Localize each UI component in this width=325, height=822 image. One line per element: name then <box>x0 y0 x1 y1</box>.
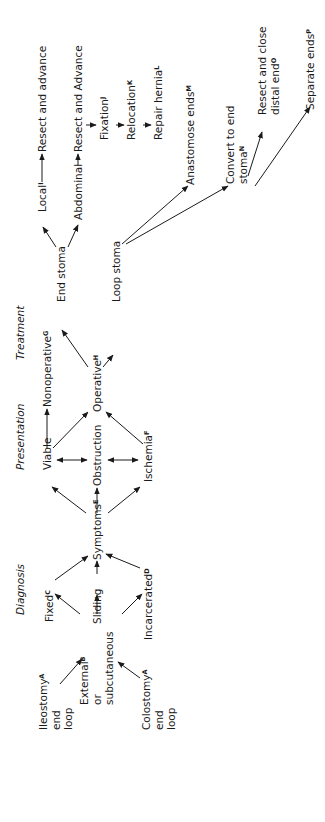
hernia-management-flowchart: Diagnosis Presentation Treatment Ileosto… <box>0 0 325 822</box>
node-anastomose-label: Anastomose ends <box>184 92 196 185</box>
node-viable: Viable <box>41 438 54 470</box>
footnote-marker: H <box>92 355 100 360</box>
header-presentation: Presentation <box>14 404 26 470</box>
node-convert-line1: Convert to end <box>224 105 236 184</box>
node-incarcerated-label: Incarcerated <box>142 574 154 640</box>
node-local-label: Local <box>36 185 48 212</box>
footnote-marker: G <box>42 331 50 336</box>
node-resect-close-line2: distal end <box>269 63 281 115</box>
node-relocation: RelocationK <box>125 80 138 140</box>
footnote-marker: A <box>141 669 149 674</box>
node-fixation-label: Fixation <box>98 99 110 140</box>
footnote-marker: E <box>92 500 100 504</box>
node-external-label: External <box>78 661 90 705</box>
footnote-marker: B <box>79 656 87 661</box>
footnote-marker: P <box>305 29 313 34</box>
node-repair-hernia: Repair herniaL <box>152 66 165 140</box>
node-end-stoma: End stoma <box>55 246 68 302</box>
node-ileostomy-label: Ileostomy <box>37 679 49 730</box>
node-repair-hernia-label: Repair hernia <box>152 70 164 140</box>
node-resect-close-line1: Resect and close <box>256 26 268 115</box>
node-abdominal-label: Abdominal <box>72 164 84 220</box>
node-convert-to-end-stoma: Convert to end stomaN <box>224 105 249 184</box>
footnote-marker: O <box>270 58 278 64</box>
node-loop-stoma: Loop stoma <box>110 241 123 302</box>
node-viable-label: Viable <box>41 438 53 470</box>
footnote-marker: N <box>238 146 246 151</box>
node-resect-advance-abd: Resect and Advance <box>72 45 85 152</box>
node-ischemia-label: Ischemia <box>142 435 154 482</box>
node-obstruction: Obstruction <box>91 425 104 486</box>
footnote-marker: M <box>185 85 193 91</box>
node-resect-close-distal: Resect and close distal endO <box>256 26 281 115</box>
node-convert-line2: stoma <box>237 151 249 184</box>
node-nonoperative: NonoperativeG <box>41 331 54 407</box>
node-ischemia: IschemiaF <box>142 431 155 483</box>
node-fixation: FixationJ <box>98 97 111 140</box>
node-sliding: Sliding <box>91 589 104 624</box>
node-end-stoma-label: End stoma <box>55 246 67 302</box>
node-external: ExternalB or subcutaneous <box>78 632 116 705</box>
footnote-marker: J <box>99 97 107 99</box>
footnote-marker: I <box>37 182 45 184</box>
node-incarcerated: IncarceratedD <box>142 568 155 640</box>
node-symptoms: SymptomsE <box>91 500 104 560</box>
node-external-or: or <box>91 694 103 705</box>
node-operative-label: Operative <box>91 360 103 412</box>
node-ileostomy-end: end <box>50 710 62 730</box>
header-treatment: Treatment <box>14 306 26 360</box>
node-local: LocalI <box>36 182 49 212</box>
node-abdominal: Abdominal <box>72 164 85 220</box>
node-nonoperative-label: Nonoperative <box>41 336 53 407</box>
node-external-subcutaneous: subcutaneous <box>103 632 115 705</box>
footnote-marker: F <box>143 431 151 435</box>
node-relocation-label: Relocation <box>125 85 137 140</box>
node-colostomy-label: Colostomy <box>140 674 152 730</box>
node-colostomy-end: end <box>153 710 165 730</box>
node-resect-advance-local: Resect and advance <box>36 46 49 152</box>
footnote-marker: K <box>126 80 134 85</box>
node-obstruction-label: Obstruction <box>91 425 103 486</box>
node-resect-advance-local-label: Resect and advance <box>36 46 48 152</box>
footnote-marker: L <box>153 66 161 70</box>
node-ileostomy: IleostomyA end loop <box>37 674 75 730</box>
footnote-marker: A <box>38 674 46 679</box>
node-symptoms-label: Symptoms <box>91 504 103 560</box>
footnote-marker: C <box>44 590 52 595</box>
node-loop-stoma-label: Loop stoma <box>110 241 122 302</box>
node-operative: OperativeH <box>91 355 104 412</box>
node-colostomy-loop: loop <box>165 708 177 730</box>
node-fixed-label: Fixed <box>43 595 55 622</box>
header-diagnosis: Diagnosis <box>14 564 26 615</box>
node-sliding-label: Sliding <box>91 589 103 624</box>
node-anastomose-ends: Anastomose endsM <box>184 85 197 185</box>
node-fixed: FixedC <box>43 590 56 622</box>
node-resect-advance-abd-label: Resect and Advance <box>72 45 84 152</box>
node-colostomy: ColostomyA end loop <box>140 669 178 730</box>
node-ileostomy-loop: loop <box>62 708 74 730</box>
node-separate-ends: Separate endsP <box>304 29 317 110</box>
node-separate-label: Separate ends <box>304 34 316 110</box>
footnote-marker: D <box>143 568 151 573</box>
